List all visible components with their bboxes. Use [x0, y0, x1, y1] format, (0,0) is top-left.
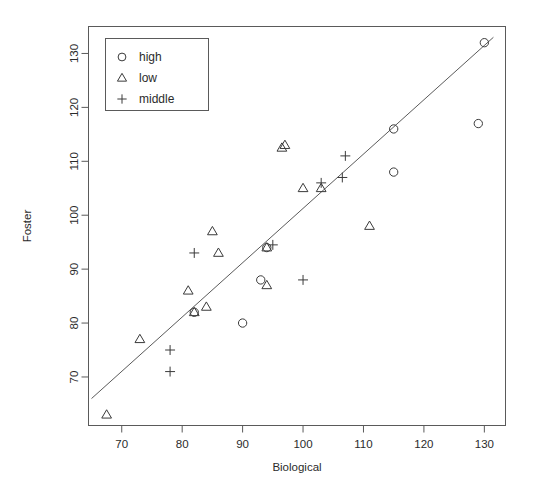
x-axis-title: Biological: [272, 461, 321, 473]
legend: highlowmiddle: [106, 39, 209, 111]
y-tick-label: 110: [69, 152, 81, 170]
y-tick-label: 70: [69, 371, 81, 384]
x-tick-label: 110: [354, 438, 372, 450]
x-tick-label: 90: [236, 438, 249, 450]
x-tick-label: 100: [293, 438, 312, 450]
legend-label-high: high: [139, 50, 162, 64]
x-tick-label: 130: [475, 438, 494, 450]
y-tick-label: 90: [69, 263, 81, 276]
plot-canvas: 708090100110120130 708090100110120130 Bi…: [0, 0, 542, 501]
x-tick-label: 120: [414, 438, 433, 450]
scatter-plot-figure: 708090100110120130 708090100110120130 Bi…: [0, 0, 542, 501]
y-tick-label: 80: [69, 317, 81, 330]
legend-label-low: low: [139, 71, 157, 85]
y-tick-label: 100: [69, 206, 81, 225]
y-tick-label: 130: [69, 44, 81, 63]
legend-label-middle: middle: [139, 92, 175, 106]
y-axis-title: Foster: [21, 210, 33, 243]
x-tick-label: 70: [115, 438, 128, 450]
y-tick-label: 120: [69, 98, 81, 117]
x-tick-label: 80: [176, 438, 189, 450]
